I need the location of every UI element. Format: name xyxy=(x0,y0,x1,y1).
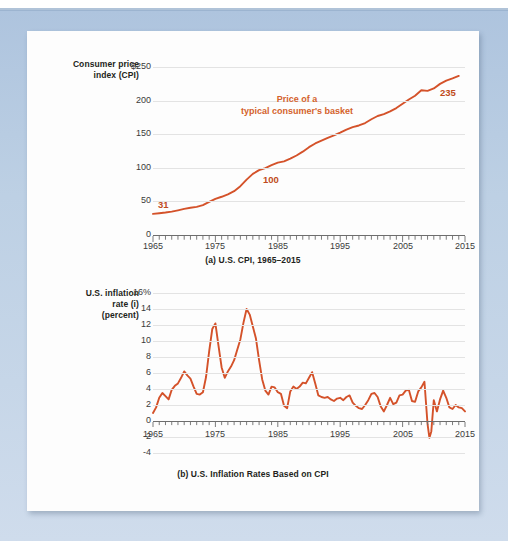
cpi-line-series xyxy=(153,67,465,235)
inflation-gridline-6 xyxy=(153,373,465,374)
cpi-xtick-1975: 1975 xyxy=(195,241,235,251)
cpi-gridline-100 xyxy=(153,168,465,169)
cpi-xtick-1985: 1985 xyxy=(258,241,298,251)
inflation-ytick-16: 16% xyxy=(113,287,151,297)
inflation-ytick-14: 14 xyxy=(113,303,151,313)
inflation-gridline-neg4 xyxy=(153,453,465,454)
inflation-caption: (b) U.S. Inflation Rates Based on CPI xyxy=(27,469,479,479)
inflation-gridline-10 xyxy=(153,341,465,342)
inflation-ytick-2: 2 xyxy=(113,399,151,409)
inflation-x-axis-ticks xyxy=(153,422,465,428)
cpi-ytick-0: 0 xyxy=(113,229,151,239)
cpi-label-235: 235 xyxy=(440,87,456,98)
cpi-xtick-1965: 1965 xyxy=(133,241,173,251)
cpi-gridline-150 xyxy=(153,134,465,135)
inflation-gridline-4 xyxy=(153,389,465,390)
inflation-xtick-1965: 1965 xyxy=(133,429,173,439)
cpi-gridline-50 xyxy=(153,201,465,202)
cpi-caption: (a) U.S. CPI, 1965–2015 xyxy=(27,255,479,265)
inflation-xtick-2005: 2005 xyxy=(383,429,423,439)
inflation-ytick-12: 12 xyxy=(113,319,151,329)
inflation-xtick-2015: 2015 xyxy=(445,429,485,439)
cpi-label-100: 100 xyxy=(263,174,279,185)
cpi-xtick-2015: 2015 xyxy=(445,241,485,251)
inflation-ytick-4: 4 xyxy=(113,383,151,393)
inflation-ytick-neg4: -4 xyxy=(113,447,151,457)
inflation-gridline-2 xyxy=(153,405,465,406)
cpi-ytick-250: $250 xyxy=(113,61,151,71)
inflation-gridline-8 xyxy=(153,357,465,358)
cpi-gridline-250 xyxy=(153,67,465,68)
inflation-xtick-1985: 1985 xyxy=(258,429,298,439)
inflation-ytick-10: 10 xyxy=(113,335,151,345)
inflation-xtick-1975: 1975 xyxy=(195,429,235,439)
cpi-ytick-50: 50 xyxy=(113,195,151,205)
cpi-basket-annotation-line2: typical consumer's basket xyxy=(217,106,377,118)
cpi-xtick-2005: 2005 xyxy=(383,241,423,251)
inflation-gridline-14 xyxy=(153,309,465,310)
inflation-xtick-1995: 1995 xyxy=(320,429,360,439)
inflation-gridline-12 xyxy=(153,325,465,326)
inflation-ytick-0: 0 xyxy=(113,415,151,425)
cpi-basket-annotation-line1: Price of a xyxy=(217,94,377,106)
cpi-basket-annotation: Price of a typical consumer's basket xyxy=(217,94,377,117)
cpi-label-31: 31 xyxy=(158,199,169,210)
inflation-ytick-6: 6 xyxy=(113,367,151,377)
cpi-ytick-150: 150 xyxy=(113,128,151,138)
figure-page: Consumer price index (CPI) $250 200 150 … xyxy=(27,31,479,511)
cpi-y-axis-title-line2: index (CPI) xyxy=(33,70,139,81)
top-divider-line xyxy=(0,8,508,11)
cpi-ytick-200: 200 xyxy=(113,95,151,105)
cpi-plot-area xyxy=(153,67,465,235)
cpi-ytick-100: 100 xyxy=(113,162,151,172)
cpi-xtick-1995: 1995 xyxy=(320,241,360,251)
inflation-gridline-16 xyxy=(153,293,465,294)
inflation-ytick-8: 8 xyxy=(113,351,151,361)
